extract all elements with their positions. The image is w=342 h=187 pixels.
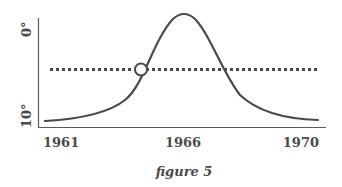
y-tick-label-bottom: 10° bbox=[19, 103, 34, 128]
y-tick-label-top: 0° bbox=[19, 21, 34, 37]
bell-curve bbox=[45, 14, 318, 121]
chart: 0° 10° 1961 1966 1970 figure 5 bbox=[0, 0, 342, 187]
figure-caption: figure 5 bbox=[155, 164, 213, 179]
x-tick-label-1961: 1961 bbox=[43, 135, 79, 150]
x-tick-label-1966: 1966 bbox=[165, 135, 201, 150]
intersection-marker bbox=[135, 64, 147, 76]
x-tick-label-1970: 1970 bbox=[283, 135, 319, 150]
